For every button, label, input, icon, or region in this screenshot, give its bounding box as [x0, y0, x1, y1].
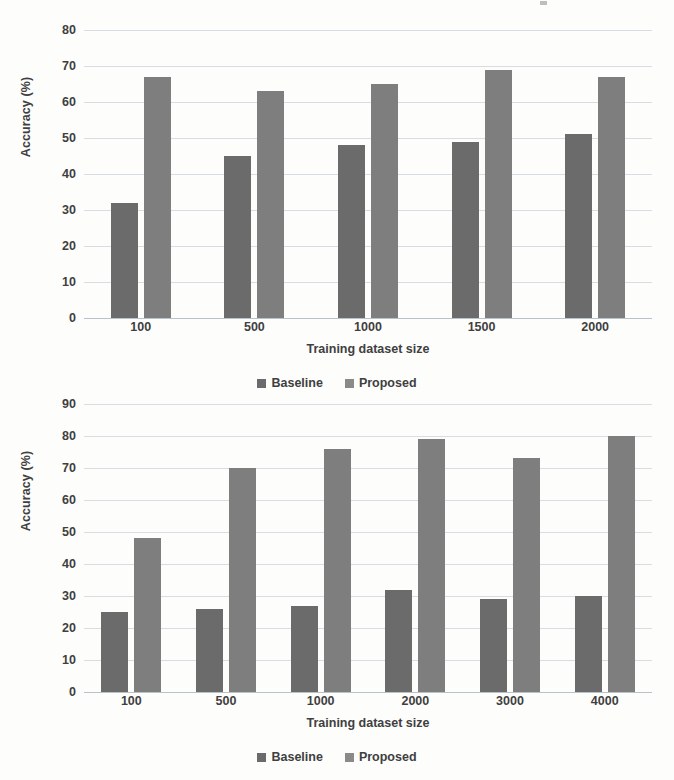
top-chart-bar-proposed-1500[interactable] [485, 70, 512, 318]
bottom-chart-bar-proposed-2000[interactable] [418, 439, 445, 692]
bottom-chart-legend-item-proposed[interactable]: Proposed [345, 750, 417, 764]
bottom-chart-y-tick: 80 [62, 429, 76, 443]
top-chart-y-tick: 10 [62, 275, 76, 289]
bottom-chart-bar-proposed-100[interactable] [134, 538, 161, 692]
legend-swatch-icon [345, 753, 354, 762]
top-chart-y-tick: 70 [62, 59, 76, 73]
top-chart-legend-item-proposed[interactable]: Proposed [345, 376, 417, 390]
top-chart-bar-group [538, 18, 652, 318]
legend-swatch-icon [257, 753, 266, 762]
bottom-chart-bar-baseline-100[interactable] [101, 612, 128, 692]
scan-speck [540, 1, 547, 5]
top-chart-bar-group [425, 18, 539, 318]
legend-swatch-icon [345, 379, 354, 388]
top-chart-bar-baseline-500[interactable] [224, 156, 251, 318]
bottom-chart-bar-group [84, 392, 179, 692]
bottom-chart-y-tick: 40 [62, 557, 76, 571]
bottom-chart-bar-group [273, 392, 368, 692]
bottom-chart-y-tick: 70 [62, 461, 76, 475]
page-canvas: Accuracy (%) 80706050403020100 100500100… [0, 0, 674, 780]
top-chart-x-axis-title: Training dataset size [84, 342, 652, 356]
top-chart-x-axis-line [84, 318, 652, 319]
top-chart-bar-baseline-100[interactable] [111, 203, 138, 318]
bottom-chart-x-tick-labels: 1005001000200030004000 [84, 694, 652, 708]
bottom-chart-legend-label: Baseline [271, 750, 322, 764]
bottom-chart-bar-baseline-2000[interactable] [385, 590, 412, 692]
top-chart-legend-label: Proposed [359, 376, 417, 390]
bottom-chart-bar-group [463, 392, 558, 692]
bottom-chart-y-tick: 20 [62, 621, 76, 635]
bottom-chart-x-tick: 4000 [557, 694, 652, 708]
bottom-chart-y-axis-title: Accuracy (%) [19, 421, 33, 561]
top-chart-bar-baseline-1000[interactable] [338, 145, 365, 318]
top-chart: Accuracy (%) 80706050403020100 100500100… [0, 18, 674, 390]
top-chart-bar-group [311, 18, 425, 318]
top-chart-y-tick: 60 [62, 95, 76, 109]
bottom-chart-legend-label: Proposed [359, 750, 417, 764]
bottom-chart-bar-proposed-3000[interactable] [513, 458, 540, 692]
top-chart-y-tick: 20 [62, 239, 76, 253]
bottom-chart-x-tick: 500 [179, 694, 274, 708]
bottom-chart-y-tick: 60 [62, 493, 76, 507]
bottom-chart-plot-area [84, 392, 652, 692]
top-chart-bar-group [84, 18, 198, 318]
bottom-chart-x-tick: 2000 [368, 694, 463, 708]
bottom-chart-y-tick: 90 [62, 397, 76, 411]
top-chart-y-tick-labels: 80706050403020100 [46, 18, 76, 318]
top-chart-y-axis-title: Accuracy (%) [19, 47, 33, 187]
top-chart-legend-item-baseline[interactable]: Baseline [257, 376, 322, 390]
top-chart-plot-area [84, 18, 652, 318]
bottom-chart-y-tick: 0 [69, 685, 76, 699]
bottom-chart-y-tick: 30 [62, 589, 76, 603]
top-chart-bar-proposed-100[interactable] [144, 77, 171, 318]
top-chart-bar-proposed-1000[interactable] [371, 84, 398, 318]
top-chart-bar-baseline-1500[interactable] [452, 142, 479, 318]
bottom-chart-legend: BaselineProposed [0, 750, 674, 764]
bottom-chart-bar-proposed-500[interactable] [229, 468, 256, 692]
top-chart-x-tick: 1000 [311, 320, 425, 334]
bottom-chart-bar-group [557, 392, 652, 692]
top-chart-y-tick: 40 [62, 167, 76, 181]
top-chart-bar-group [198, 18, 312, 318]
bottom-chart-bar-group [368, 392, 463, 692]
top-chart-y-tick: 80 [62, 23, 76, 37]
top-chart-x-tick: 500 [198, 320, 312, 334]
bottom-chart-x-tick: 100 [84, 694, 179, 708]
bottom-chart-x-tick: 3000 [463, 694, 558, 708]
bottom-chart-y-tick: 50 [62, 525, 76, 539]
bottom-chart-bar-groups [84, 392, 652, 692]
legend-swatch-icon [257, 379, 266, 388]
bottom-chart-legend-item-baseline[interactable]: Baseline [257, 750, 322, 764]
top-chart-plot-wrap: Accuracy (%) 80706050403020100 [0, 18, 674, 318]
bottom-chart-bar-baseline-4000[interactable] [575, 596, 602, 692]
top-chart-x-tick-labels: 100500100015002000 [84, 320, 652, 334]
bottom-chart-y-tick: 10 [62, 653, 76, 667]
bottom-chart-bar-proposed-1000[interactable] [324, 449, 351, 692]
top-chart-legend: BaselineProposed [0, 376, 674, 390]
bottom-chart: Accuracy (%) 9080706050403020100 1005001… [0, 392, 674, 764]
bottom-chart-x-axis-line [84, 692, 652, 693]
bottom-chart-plot-wrap: Accuracy (%) 9080706050403020100 [0, 392, 674, 692]
bottom-chart-bar-proposed-4000[interactable] [608, 436, 635, 692]
top-chart-bar-proposed-500[interactable] [257, 91, 284, 318]
top-chart-y-tick: 0 [69, 311, 76, 325]
top-chart-y-tick: 30 [62, 203, 76, 217]
bottom-chart-y-tick-labels: 9080706050403020100 [46, 392, 76, 692]
top-chart-x-tick: 1500 [425, 320, 539, 334]
bottom-chart-bar-group [179, 392, 274, 692]
bottom-chart-bar-baseline-1000[interactable] [291, 606, 318, 692]
bottom-chart-bar-baseline-3000[interactable] [480, 599, 507, 692]
bottom-chart-x-tick: 1000 [273, 694, 368, 708]
top-chart-legend-label: Baseline [271, 376, 322, 390]
top-chart-bar-baseline-2000[interactable] [565, 134, 592, 318]
bottom-chart-x-axis-title: Training dataset size [84, 716, 652, 730]
top-chart-y-tick: 50 [62, 131, 76, 145]
top-chart-bar-groups [84, 18, 652, 318]
bottom-chart-bar-baseline-500[interactable] [196, 609, 223, 692]
top-chart-bar-proposed-2000[interactable] [598, 77, 625, 318]
top-chart-x-tick: 100 [84, 320, 198, 334]
top-chart-x-tick: 2000 [538, 320, 652, 334]
